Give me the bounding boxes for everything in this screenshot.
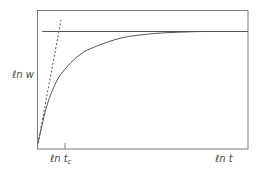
x-axis-label: ℓn t (215, 153, 234, 164)
series-layer (38, 20, 248, 144)
x-tick-label-tc: ℓn tc (50, 153, 72, 166)
x-tick-label-main: ℓn t (50, 153, 69, 164)
growth-curve (38, 32, 248, 144)
y-axis-label: ℓn w (12, 69, 35, 80)
x-tick-label-sub: c (68, 158, 72, 166)
initial-slope-tangent (38, 20, 61, 144)
chart: ℓn w ℓn tc ℓn t (0, 0, 260, 171)
